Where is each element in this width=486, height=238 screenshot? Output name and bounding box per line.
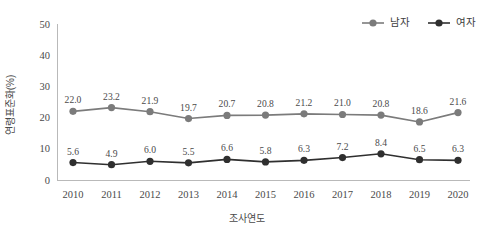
chart-container: 01020304050 2010201120122013201420152016… bbox=[0, 0, 486, 238]
data-point bbox=[300, 110, 307, 117]
data-point bbox=[377, 150, 384, 157]
legend-item-female[interactable]: 여자 bbox=[428, 16, 476, 28]
x-tick-label: 2013 bbox=[178, 189, 199, 200]
data-point-label: 21.2 bbox=[296, 97, 313, 108]
data-point-label: 6.3 bbox=[298, 143, 310, 154]
y-tick-label: 20 bbox=[40, 112, 51, 123]
legend: 남자여자 bbox=[362, 16, 476, 28]
data-point-label: 4.9 bbox=[106, 148, 118, 159]
x-tick-label: 2019 bbox=[409, 189, 430, 200]
data-point bbox=[185, 159, 192, 166]
x-tick-label: 2015 bbox=[255, 189, 276, 200]
data-point-label: 18.6 bbox=[411, 105, 428, 116]
data-point-label: 21.0 bbox=[334, 97, 351, 108]
data-point-label: 20.8 bbox=[257, 98, 274, 109]
y-tick-label: 30 bbox=[40, 81, 51, 92]
x-axis-tick-labels: 2010201120122013201420152016201720182019… bbox=[63, 189, 469, 200]
data-point-label: 22.0 bbox=[65, 94, 82, 105]
data-point bbox=[108, 161, 115, 168]
legend-label: 남자 bbox=[390, 16, 410, 28]
y-tick-label: 40 bbox=[40, 50, 51, 61]
y-axis-title: 연령표준화(%) bbox=[5, 75, 16, 136]
data-point-label: 6.6 bbox=[221, 142, 233, 153]
x-tick-label: 2016 bbox=[294, 189, 315, 200]
series-layer bbox=[69, 104, 461, 168]
data-point-label: 6.0 bbox=[144, 144, 156, 155]
legend-label: 여자 bbox=[456, 16, 476, 28]
data-point-label: 20.7 bbox=[219, 98, 236, 109]
data-point bbox=[454, 109, 461, 116]
data-point-label: 6.5 bbox=[414, 143, 426, 154]
data-point-label: 6.3 bbox=[452, 143, 464, 154]
data-point bbox=[300, 157, 307, 164]
legend-marker-icon bbox=[435, 19, 442, 26]
x-tick-label: 2017 bbox=[332, 189, 353, 200]
data-point-label: 5.5 bbox=[183, 146, 195, 157]
data-point bbox=[416, 118, 423, 125]
data-point-label: 19.7 bbox=[180, 102, 197, 113]
x-tick-label: 2018 bbox=[371, 189, 392, 200]
data-point bbox=[223, 156, 230, 163]
data-point bbox=[108, 104, 115, 111]
x-axis-title: 조사연도 bbox=[229, 213, 265, 224]
x-tick-label: 2010 bbox=[63, 189, 84, 200]
x-tick-label: 2020 bbox=[448, 189, 469, 200]
data-point bbox=[339, 154, 346, 161]
data-point-label: 21.6 bbox=[450, 96, 467, 107]
data-point-label: 20.8 bbox=[373, 98, 390, 109]
data-point-label: 5.8 bbox=[260, 145, 272, 156]
data-point bbox=[146, 158, 153, 165]
y-tick-label: 50 bbox=[40, 19, 51, 30]
data-point bbox=[416, 156, 423, 163]
data-point bbox=[223, 112, 230, 119]
data-point bbox=[146, 108, 153, 115]
data-point bbox=[69, 159, 76, 166]
legend-marker-icon bbox=[369, 19, 376, 26]
y-axis-tick-labels: 01020304050 bbox=[40, 19, 51, 186]
data-point-label: 21.9 bbox=[142, 95, 159, 106]
y-tick-label: 0 bbox=[45, 175, 50, 186]
data-point bbox=[377, 112, 384, 119]
x-tick-label: 2011 bbox=[101, 189, 122, 200]
data-point-label: 7.2 bbox=[337, 141, 349, 152]
data-point bbox=[262, 112, 269, 119]
data-point-label: 5.6 bbox=[67, 146, 79, 157]
x-tick-label: 2012 bbox=[140, 189, 161, 200]
data-point-label: 8.4 bbox=[375, 137, 387, 148]
data-point-label: 23.2 bbox=[103, 91, 120, 102]
line-chart: 01020304050 2010201120122013201420152016… bbox=[0, 0, 486, 238]
data-point bbox=[339, 111, 346, 118]
data-point bbox=[185, 115, 192, 122]
data-point bbox=[262, 158, 269, 165]
legend-item-male[interactable]: 남자 bbox=[362, 16, 410, 28]
data-point bbox=[454, 157, 461, 164]
y-tick-label: 10 bbox=[40, 143, 51, 154]
data-labels-layer: 22.023.221.919.720.720.821.221.020.818.6… bbox=[65, 91, 467, 159]
x-tick-label: 2014 bbox=[217, 189, 239, 200]
data-point bbox=[69, 108, 76, 115]
